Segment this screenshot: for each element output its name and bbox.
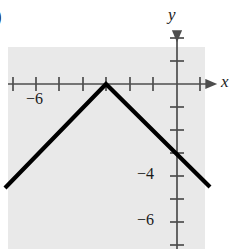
y-axis-label: y	[168, 6, 176, 23]
coordinate-plot	[0, 0, 240, 249]
x-axis-label: x	[221, 73, 229, 90]
y-tick-label-neg4: −4	[137, 166, 154, 182]
graph-figure: ) x y −6 −4 −6	[0, 0, 240, 249]
x-tick-label-neg6: −6	[26, 91, 43, 107]
y-tick-label-neg6: −6	[137, 212, 154, 228]
